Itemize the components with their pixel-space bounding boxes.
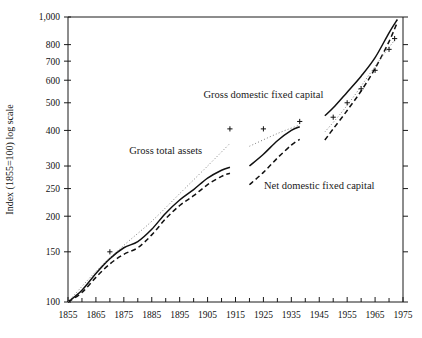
- plus-marker: [107, 249, 112, 254]
- x-tick-label: 1885: [142, 310, 161, 320]
- plus-marker: [386, 47, 391, 52]
- plus-marker: [345, 100, 350, 105]
- series-annotation-2: Gross domestic fixed capital: [203, 89, 323, 100]
- x-tick-label: 1915: [226, 310, 245, 320]
- x-tick-label: 1875: [114, 310, 133, 320]
- x-tick-label: 1855: [59, 310, 78, 320]
- x-tick-label: 1955: [338, 310, 357, 320]
- plus-marker: [331, 115, 336, 120]
- y-tick-label: 600: [46, 76, 61, 86]
- chart-container: 1001502002503004005006007008001,00018551…: [0, 0, 422, 338]
- y-tick-label: 500: [46, 98, 61, 108]
- series-line-1-seg-1: [68, 167, 230, 302]
- y-tick-label: 400: [46, 126, 61, 136]
- x-tick-label: 1945: [310, 310, 329, 320]
- y-tick-label: 700: [46, 57, 61, 67]
- x-tick-label: 1975: [394, 310, 413, 320]
- series-line-1-seg-3: [325, 20, 398, 116]
- y-tick-label: 100: [46, 297, 61, 307]
- line-chart: 1001502002503004005006007008001,00018551…: [0, 0, 422, 338]
- x-tick-label: 1935: [282, 310, 301, 320]
- series-annotation-3: Net domestic fixed capital: [264, 180, 375, 191]
- plus-marker: [261, 126, 266, 131]
- y-tick-label: 150: [46, 247, 61, 257]
- series-line-2-seg-3: [325, 22, 398, 140]
- series-line-2-seg-1: [68, 173, 230, 302]
- series-line-2-seg-2: [249, 139, 299, 184]
- x-tick-label: 1865: [86, 310, 105, 320]
- plus-marker: [297, 119, 302, 124]
- plus-marker: [359, 86, 364, 91]
- plus-marker: [392, 36, 397, 41]
- x-tick-label: 1895: [170, 310, 189, 320]
- y-tick-label: 250: [46, 184, 61, 194]
- y-tick-label: 1,000: [39, 12, 61, 22]
- x-tick-label: 1925: [254, 310, 273, 320]
- x-tick-label: 1905: [198, 310, 217, 320]
- series-line-3-seg-3: [325, 40, 395, 132]
- y-tick-label: 800: [46, 40, 61, 50]
- plus-marker: [227, 126, 232, 131]
- y-tick-label: 200: [46, 212, 61, 222]
- y-tick-label: 300: [46, 161, 61, 171]
- plot-frame: [68, 17, 403, 302]
- y-axis-title: Index (1855=100) log scale: [4, 104, 16, 215]
- series-annotation-1: Gross total assets: [129, 145, 202, 156]
- x-tick-label: 1965: [366, 310, 385, 320]
